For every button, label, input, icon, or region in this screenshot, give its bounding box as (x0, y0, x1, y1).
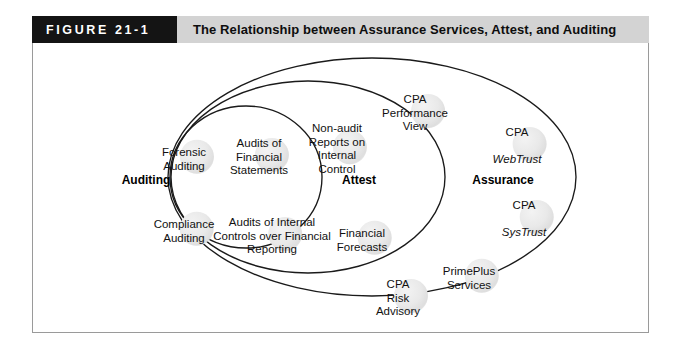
cpa-web-trust-line1: CPA (506, 126, 529, 138)
node-compliance-auditing: Compliance Auditing (154, 191, 215, 245)
cpa-sys-trust-line2: SysTrust (502, 226, 547, 238)
node-cpa-risk-advisory: PrimePlus Services (443, 238, 495, 292)
cpa-web-trust-line2: WebTrust (493, 153, 542, 165)
venn-diagram: Auditing Attest Assurance Forensic Audit… (32, 43, 649, 333)
nested-ellipses (32, 43, 649, 333)
figure-root: FIGURE 21-1 The Relationship between Ass… (0, 0, 681, 350)
node-audits-internal-controls: Audits of Internal Controls over Financi… (213, 189, 331, 257)
figure-title: The Relationship between Assurance Servi… (177, 16, 649, 43)
figure-header: FIGURE 21-1 The Relationship between Ass… (32, 16, 649, 43)
cpa-sys-trust-line1: CPA (513, 199, 536, 211)
region-label-assurance: Assurance (472, 173, 533, 187)
region-label-attest: Attest (342, 173, 376, 187)
node-cpa-performance-view: CPA Performance View (382, 66, 448, 134)
node-audits-financial-stmts: Audits of Financial Statements (230, 110, 288, 178)
region-label-auditing: Auditing (122, 173, 171, 187)
node-financial-forecasts: Financial Forecasts (337, 200, 388, 254)
node-forensic-auditing: Forensic Auditing (162, 119, 206, 173)
figure-number-tag: FIGURE 21-1 (32, 16, 177, 43)
node-prime-plus-services: CPA Risk Advisory (376, 251, 420, 319)
node-non-audit-reports: Non-audit Reports on Internal Control (309, 95, 365, 177)
node-cpa-web-trust: CPA WebTrust (493, 99, 542, 167)
